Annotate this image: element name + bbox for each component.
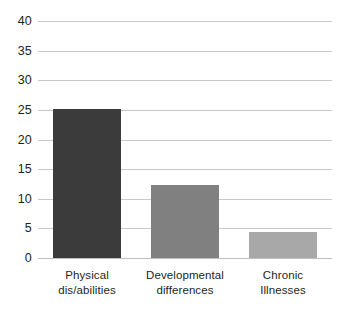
bar bbox=[249, 232, 317, 258]
bar bbox=[53, 109, 121, 258]
y-tick-label: 25 bbox=[6, 104, 32, 117]
y-axis: 40 35 30 25 20 15 10 5 0 bbox=[0, 21, 32, 258]
y-tick-label: 20 bbox=[6, 134, 32, 147]
y-tick-label: 15 bbox=[6, 163, 32, 176]
gridline bbox=[38, 80, 332, 81]
bar bbox=[151, 185, 219, 258]
x-category-label-line2: dis/abilities bbox=[38, 283, 136, 298]
x-category-label: Developmental differences bbox=[136, 268, 234, 298]
axis-baseline bbox=[38, 258, 332, 259]
y-tick-label: 5 bbox=[6, 222, 32, 235]
x-category-label-line1: Physical bbox=[65, 269, 109, 281]
y-tick-label: 10 bbox=[6, 193, 32, 206]
plot-area bbox=[38, 21, 332, 258]
x-axis: Physical dis/abilities Developmental dif… bbox=[38, 268, 332, 314]
bar-chart-figure: 40 35 30 25 20 15 10 5 0 Physical dis/ab… bbox=[0, 0, 340, 320]
y-tick-label: 35 bbox=[6, 45, 32, 58]
x-category-label: Chronic Illnesses bbox=[234, 268, 332, 298]
gridline bbox=[38, 51, 332, 52]
x-category-label-line1: Chronic bbox=[263, 269, 303, 281]
y-tick-label: 40 bbox=[6, 15, 32, 28]
y-tick-label: 30 bbox=[6, 74, 32, 87]
gridline bbox=[38, 21, 332, 22]
y-tick-label: 0 bbox=[6, 252, 32, 265]
x-category-label-line2: differences bbox=[136, 283, 234, 298]
x-category-label: Physical dis/abilities bbox=[38, 268, 136, 298]
x-category-label-line2: Illnesses bbox=[234, 283, 332, 298]
x-category-label-line1: Developmental bbox=[146, 269, 224, 281]
